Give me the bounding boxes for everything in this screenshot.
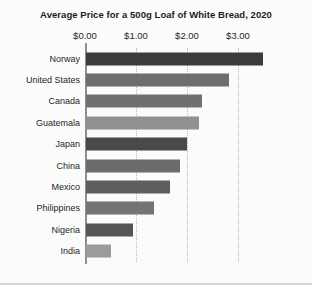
category-label: Japan bbox=[55, 139, 80, 149]
bar-row: Norway bbox=[0, 48, 312, 69]
bar bbox=[86, 116, 199, 129]
bar-row: Nigeria bbox=[0, 219, 312, 240]
category-label: Canada bbox=[48, 96, 80, 106]
bar-row: Canada bbox=[0, 91, 312, 112]
bar bbox=[86, 138, 187, 151]
bar-row: Philippines bbox=[0, 198, 312, 219]
x-axis-tick-label: $0.00 bbox=[73, 30, 97, 41]
category-label: Guatemala bbox=[36, 118, 80, 128]
bar-row: India bbox=[0, 241, 312, 262]
x-axis-tick-label: $2.00 bbox=[175, 30, 199, 41]
bar bbox=[86, 52, 263, 65]
bar bbox=[86, 95, 202, 108]
x-axis-tick-label: $3.00 bbox=[226, 30, 250, 41]
x-axis-tick-label: $1.00 bbox=[124, 30, 148, 41]
bar-row: China bbox=[0, 155, 312, 176]
category-label: Philippines bbox=[36, 203, 80, 213]
category-label: United States bbox=[26, 75, 80, 85]
bar bbox=[86, 223, 133, 236]
category-label: India bbox=[60, 246, 80, 256]
bar bbox=[86, 74, 229, 87]
bar-row: Japan bbox=[0, 134, 312, 155]
bar-chart-plot-area: $0.00$1.00$2.00$3.00NorwayUnited StatesC… bbox=[0, 0, 312, 285]
bar-row: Mexico bbox=[0, 176, 312, 197]
bar-row: Guatemala bbox=[0, 112, 312, 133]
bar-row: United States bbox=[0, 69, 312, 90]
bar bbox=[86, 245, 111, 258]
category-label: Nigeria bbox=[51, 225, 80, 235]
bar bbox=[86, 202, 154, 215]
category-label: China bbox=[56, 161, 80, 171]
chart-card: Average Price for a 500g Loaf of White B… bbox=[0, 0, 312, 285]
bar bbox=[86, 181, 170, 194]
bar bbox=[86, 159, 180, 172]
category-label: Mexico bbox=[51, 182, 80, 192]
category-label: Norway bbox=[49, 54, 80, 64]
